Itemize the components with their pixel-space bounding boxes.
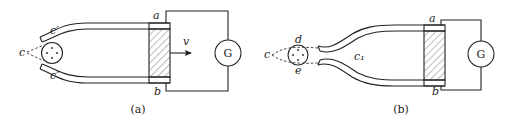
particle-dot bbox=[297, 59, 299, 61]
source-cell bbox=[288, 45, 308, 65]
tube-upper-inner-wall bbox=[320, 31, 424, 52]
label-b: b bbox=[432, 85, 439, 98]
arrow-head-icon bbox=[185, 50, 192, 56]
dashed-envelope-lower bbox=[272, 55, 318, 63]
hatched-collector bbox=[149, 29, 170, 77]
electrode-plate-top bbox=[424, 25, 445, 31]
dashed-envelope-upper bbox=[272, 47, 318, 55]
label-d: d bbox=[295, 33, 302, 46]
panel-b: c d e c₁ a b G (b) bbox=[264, 12, 494, 116]
particle-dot bbox=[56, 52, 58, 54]
label-e: e bbox=[295, 64, 302, 77]
electrode-plate-top bbox=[149, 23, 170, 29]
electrode-plate-bottom bbox=[149, 77, 170, 83]
tube-upper-lip bbox=[40, 37, 42, 42]
particle-dot bbox=[292, 54, 294, 56]
circuit-wire-top bbox=[166, 11, 228, 40]
label-b: b bbox=[154, 85, 161, 98]
label-a: a bbox=[429, 12, 436, 25]
label-v: v bbox=[183, 35, 190, 48]
tube-lower-inner-wall bbox=[320, 59, 424, 80]
particle-dot bbox=[46, 52, 48, 54]
label-c-double-prime: c″ bbox=[50, 69, 61, 82]
circuit-wire-top bbox=[441, 20, 481, 41]
label-c: c bbox=[19, 46, 25, 59]
caption-b: (b) bbox=[393, 103, 409, 116]
diagram: c c′ c″ a b v G (a) bbox=[0, 0, 508, 123]
label-c-prime: c′ bbox=[50, 24, 59, 37]
circuit-wire-bottom bbox=[441, 67, 481, 90]
galvanometer-label: G bbox=[477, 48, 486, 61]
hatched-collector bbox=[424, 31, 445, 80]
particle-dot bbox=[51, 47, 53, 49]
particle-dot bbox=[302, 54, 304, 56]
panel-a: c c′ c″ a b v G (a) bbox=[19, 9, 241, 116]
label-a: a bbox=[153, 9, 160, 22]
tube-lower-lip bbox=[40, 64, 42, 69]
galvanometer-label: G bbox=[224, 47, 233, 60]
circuit-wire-bottom bbox=[166, 66, 228, 91]
caption-a: (a) bbox=[130, 103, 145, 116]
source-cell bbox=[42, 43, 63, 64]
particle-dot bbox=[297, 49, 299, 51]
label-c: c bbox=[264, 48, 270, 61]
label-c1: c₁ bbox=[354, 50, 365, 63]
particle-dot bbox=[51, 57, 53, 59]
